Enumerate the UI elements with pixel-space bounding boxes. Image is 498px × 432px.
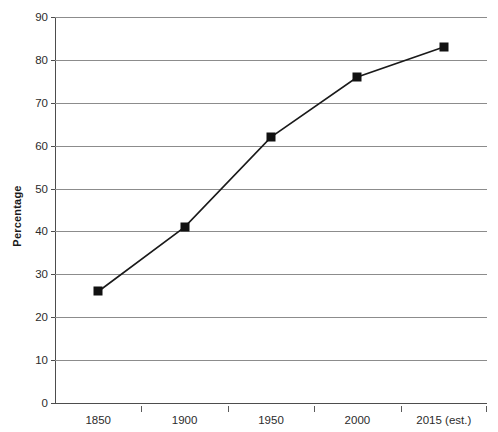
x-axis-ticks (55, 406, 487, 412)
y-tick-label: 30 (22, 268, 48, 280)
y-tick-label: 90 (22, 11, 48, 23)
x-tick-label: 2000 (345, 414, 371, 426)
data-point-marker (180, 223, 189, 232)
data-point-marker (439, 43, 448, 52)
y-tick-label: 20 (22, 311, 48, 323)
x-tick-label: 2015 (est.) (416, 414, 471, 426)
y-tick-label: 0 (22, 397, 48, 409)
x-tick-mark (314, 406, 315, 412)
y-tick-label: 40 (22, 225, 48, 237)
y-tick-label: 50 (22, 183, 48, 195)
data-point-marker (94, 287, 103, 296)
y-tick-mark (51, 403, 55, 404)
y-tick-label: 60 (22, 140, 48, 152)
x-tick-label: 1850 (85, 414, 111, 426)
y-tick-label: 70 (22, 97, 48, 109)
x-tick-mark (141, 406, 142, 412)
x-tick-mark (486, 406, 487, 412)
plot-area (55, 17, 487, 403)
data-point-marker (267, 133, 276, 142)
x-tick-label: 1950 (258, 414, 284, 426)
x-axis-tick-labels: 18501900195020002015 (est.) (55, 406, 487, 426)
y-tick-label: 10 (22, 354, 48, 366)
x-tick-mark (228, 406, 229, 412)
y-tick-label: 80 (22, 54, 48, 66)
x-tick-label: 1900 (172, 414, 198, 426)
y-axis-tick-labels: 0102030405060708090 (0, 0, 48, 432)
data-point-marker (353, 73, 362, 82)
gridline (55, 403, 487, 404)
line-chart: Percentage 0102030405060708090 185019001… (0, 0, 498, 432)
series-line (55, 17, 487, 403)
x-tick-mark (401, 406, 402, 412)
